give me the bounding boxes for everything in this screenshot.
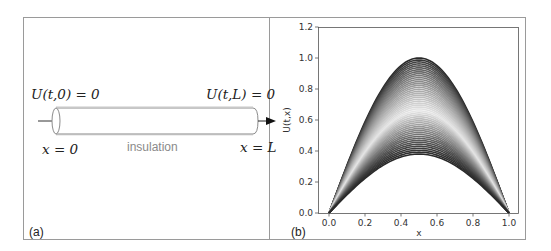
- y-tick-label: 0.8: [299, 84, 314, 94]
- x-tick-label: 0.4: [394, 218, 409, 228]
- y-tick-label: 1.0: [299, 53, 314, 63]
- y-tick-label: 0.2: [299, 177, 313, 187]
- y-tick-label: 0.4: [299, 146, 314, 156]
- x-axis: 0.00.20.40.60.81.0: [322, 214, 517, 229]
- series-curve: [329, 62, 509, 213]
- heat-chart: 0.00.20.40.60.81.0 0.00.20.40.60.81.01.2…: [0, 0, 551, 251]
- x-tick-label: 0.2: [358, 218, 372, 228]
- y-axis-label: U(t,x): [282, 107, 292, 132]
- x-tick-label: 0.0: [322, 218, 337, 228]
- y-axis: 0.00.20.40.60.81.01.2: [299, 22, 319, 218]
- x-axis-label: x: [416, 228, 422, 238]
- x-tick-label: 1.0: [502, 218, 517, 228]
- x-tick-label: 0.8: [466, 218, 481, 228]
- x-tick-label: 0.6: [430, 218, 445, 228]
- y-tick-label: 0.0: [299, 208, 314, 218]
- y-tick-label: 0.6: [299, 115, 314, 125]
- y-tick-label: 1.2: [299, 22, 313, 32]
- curves-group: [329, 58, 509, 213]
